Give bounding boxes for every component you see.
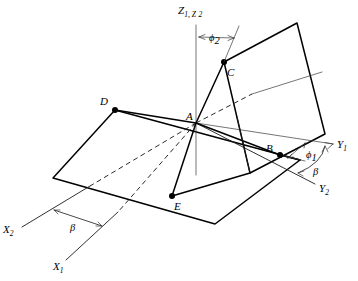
axis-label-y2: Y2 (319, 182, 329, 197)
x1-axis-dashed-segment (118, 123, 196, 212)
angle-label-beta-left: β (69, 222, 76, 233)
angle-label-phi1: ϕ1 (306, 149, 317, 163)
tilted-plane-diagonal (196, 72, 322, 123)
angle-phi1-annotation (288, 143, 305, 158)
point-label-C: C (227, 66, 235, 78)
diagonal-dashed-segment (196, 94, 252, 123)
segment-E-to-plane-corner (172, 173, 250, 196)
coordinate-system-diagram: Z1, Z 2 Y1 Y2 X1 X2 A B C D E ϕ2 ϕ1 β β (0, 0, 358, 281)
x1-axis (66, 123, 196, 260)
axis-label-y1: Y1 (337, 138, 347, 153)
segment-A-to-C (196, 62, 224, 123)
point-marker-B (277, 152, 283, 158)
projection-line-B (280, 155, 305, 161)
beta-left-arc (54, 210, 102, 226)
axis-label-z: Z1, Z 2 (178, 4, 203, 19)
x2-axis-dashed-segment (90, 123, 196, 186)
angle-label-phi2: ϕ2 (209, 32, 220, 46)
origin-rays (115, 62, 305, 196)
angle-label-beta-right: β (312, 166, 319, 177)
axis-label-x2: X2 (2, 223, 14, 238)
point-markers (112, 59, 283, 199)
segment-A-to-E (172, 123, 196, 196)
axis-label-x1: X1 (52, 260, 63, 275)
point-label-A: A (185, 110, 193, 122)
y1-axis (196, 123, 333, 149)
x1-axis-line (66, 212, 118, 260)
point-marker-E (169, 193, 175, 199)
angle-beta-left-annotation (54, 210, 102, 226)
point-label-B: B (266, 142, 273, 154)
point-marker-D (112, 107, 118, 113)
x2-axis-line (22, 186, 90, 227)
phi2-reference-line (224, 26, 239, 62)
point-label-D: D (99, 95, 108, 107)
point-label-E: E (173, 200, 181, 212)
